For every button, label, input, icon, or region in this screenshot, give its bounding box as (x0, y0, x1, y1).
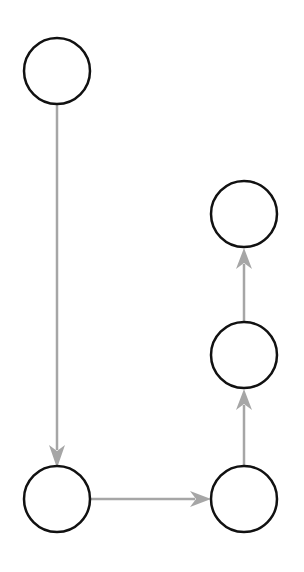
node-n5[interactable] (211, 181, 277, 247)
node-n2[interactable] (24, 466, 90, 532)
node-n3[interactable] (211, 466, 277, 532)
nodes (24, 38, 277, 532)
edge-n2-n3 (91, 491, 211, 507)
edge-n1-n2 (49, 105, 65, 468)
node-n1[interactable] (24, 38, 90, 104)
edges (49, 105, 252, 507)
edge-n4-n5 (236, 248, 252, 321)
node-n4[interactable] (211, 322, 277, 388)
edge-n3-n4 (236, 389, 252, 465)
graph-canvas (0, 0, 304, 572)
